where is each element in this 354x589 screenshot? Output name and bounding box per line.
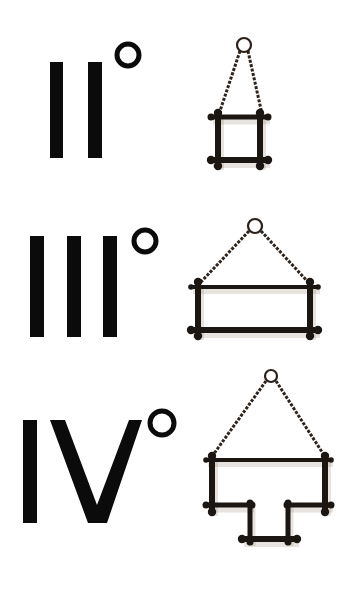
chain-icon	[213, 381, 266, 455]
bar-end-cap	[264, 156, 272, 164]
roman-numeral-ii	[50, 44, 139, 158]
chain-icon	[276, 381, 324, 455]
hanging-frame-t-shape-icon	[203, 370, 335, 546]
chain-icon	[200, 231, 249, 283]
bar-end-cap	[188, 284, 194, 290]
bar-end-cap	[314, 326, 322, 334]
hanging-frames-diagram: II° III° IV°	[0, 0, 354, 589]
bar-end-cap	[194, 278, 202, 286]
bar-end-cap	[214, 162, 222, 170]
hanging-frame-square-icon	[207, 38, 272, 170]
numeral-stroke	[103, 236, 117, 337]
bar-end-cap	[285, 500, 292, 507]
degree-symbol-icon	[134, 230, 156, 252]
chain-icon	[219, 51, 240, 114]
bar-end-cap	[208, 508, 216, 516]
numeral-stroke	[23, 420, 37, 523]
bar-end-cap	[315, 284, 321, 290]
bar-end-cap	[328, 457, 334, 463]
bar-end-cap	[256, 109, 264, 117]
bar-end-cap	[194, 332, 202, 340]
bar-end-cap	[208, 114, 215, 121]
hanging-ring-icon	[237, 38, 251, 52]
bar-end-cap	[247, 500, 254, 507]
bar-end-cap	[208, 452, 216, 460]
bar-end-cap	[293, 535, 301, 543]
roman-numeral-iv	[23, 411, 174, 523]
degree-symbol-icon	[150, 411, 174, 435]
grade-label: IV°	[0, 0, 23, 3]
numeral-v-stroke	[50, 420, 142, 523]
numeral-stroke	[50, 62, 63, 158]
bar-end-cap	[328, 502, 335, 509]
figure-stage: II° III° IV°	[0, 0, 354, 589]
bar-end-cap	[203, 502, 210, 509]
degree-symbol-icon	[117, 44, 139, 66]
bar-end-cap	[321, 452, 329, 460]
roman-numeral-iii	[30, 230, 156, 337]
chain-icon	[261, 231, 309, 283]
bar-end-cap	[306, 278, 314, 286]
hanging-frame-wide-icon	[187, 219, 322, 340]
bar-end-cap	[256, 162, 264, 170]
bar-end-cap	[265, 114, 272, 121]
bar-end-cap	[187, 326, 195, 334]
bar-end-cap	[306, 332, 314, 340]
numeral-stroke	[30, 236, 44, 337]
bar-end-cap	[238, 535, 246, 543]
numeral-stroke	[67, 236, 81, 337]
chain-icon	[248, 51, 262, 114]
hanging-ring-icon	[265, 370, 277, 382]
row-grade-iii: III°	[0, 0, 322, 340]
hanging-ring-icon	[248, 219, 262, 233]
bar-end-cap	[203, 457, 209, 463]
bar-end-cap	[321, 508, 329, 516]
bar-end-cap	[214, 109, 222, 117]
bar-end-cap	[207, 156, 215, 164]
row-grade-ii: II°	[0, 0, 272, 170]
numeral-stroke	[88, 62, 102, 158]
